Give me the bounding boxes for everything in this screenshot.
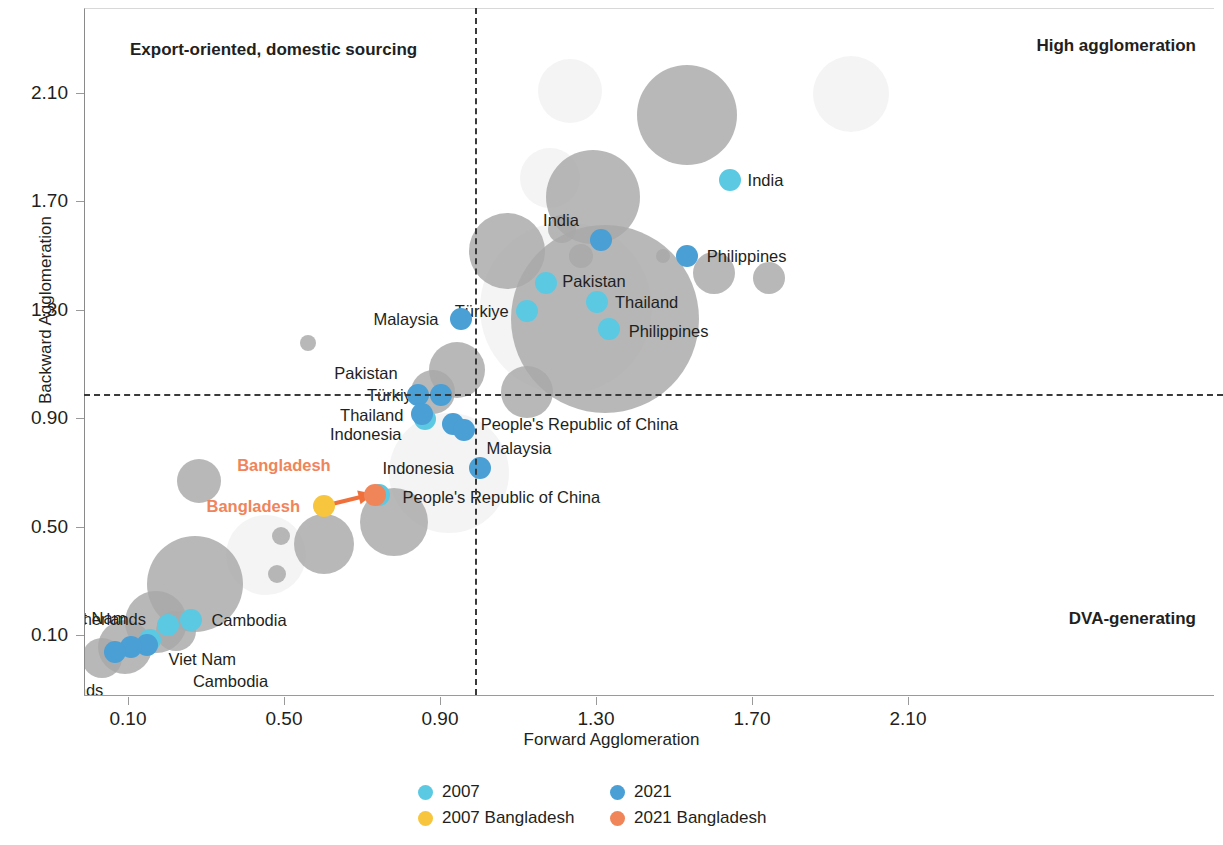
data-point-2007[interactable] xyxy=(516,300,538,322)
legend-item[interactable]: 2021 Bangladesh xyxy=(610,808,766,828)
y-tick-label: 2.10 xyxy=(31,82,68,104)
legend-swatch xyxy=(418,785,433,800)
point-label: India xyxy=(748,172,784,189)
point-label: Pakistan xyxy=(334,364,397,381)
point-label: Viet Nam xyxy=(85,610,126,627)
y-tick xyxy=(76,527,84,528)
legend-label: 2007 xyxy=(442,782,480,802)
background-bubble xyxy=(272,527,290,545)
x-tick-label: 0.90 xyxy=(422,708,459,730)
point-label: Indonesia xyxy=(382,460,454,477)
x-tick xyxy=(752,697,753,705)
data-point-2007[interactable] xyxy=(598,318,620,340)
x-tick-label: 2.10 xyxy=(890,708,927,730)
y-tick xyxy=(76,201,84,202)
data-point-2021[interactable] xyxy=(676,245,698,267)
quadrant-label-top-left: Export-oriented, domestic sourcing xyxy=(130,40,417,60)
y-tick xyxy=(76,310,84,311)
point-label: People's Republic of China xyxy=(403,489,601,506)
background-bubble xyxy=(753,262,785,294)
point-label: People's Republic of China xyxy=(481,416,679,433)
x-tick xyxy=(128,697,129,705)
x-axis-label: Forward Agglomeration xyxy=(0,730,1223,750)
x-tick-label: 1.70 xyxy=(734,708,771,730)
legend-swatch xyxy=(418,811,433,826)
legend-label: 2021 Bangladesh xyxy=(634,808,766,828)
data-point-2021[interactable] xyxy=(453,419,475,441)
background-bubble xyxy=(637,65,737,165)
horizontal-reference-line xyxy=(84,394,1223,396)
background-bubble xyxy=(656,249,670,263)
data-point-2007[interactable] xyxy=(180,609,202,631)
x-axis-line xyxy=(84,695,1214,696)
x-tick xyxy=(596,697,597,705)
legend-swatch xyxy=(610,785,625,800)
legend-label: 2021 xyxy=(634,782,672,802)
background-bubble xyxy=(569,244,593,268)
data-point-2021-bangladesh[interactable] xyxy=(364,484,386,506)
x-tick-label: 1.30 xyxy=(578,708,615,730)
data-point-2007[interactable] xyxy=(535,272,557,294)
y-tick xyxy=(76,635,84,636)
data-point-2021[interactable] xyxy=(450,308,472,330)
point-label: Malaysia xyxy=(373,310,438,327)
background-halo xyxy=(813,56,889,132)
x-tick xyxy=(440,697,441,705)
point-label: Netherlands xyxy=(85,682,103,695)
point-label: Pakistan xyxy=(562,273,625,290)
y-tick-label: 0.10 xyxy=(31,624,68,646)
background-halo xyxy=(538,59,602,123)
plot-inner: IndiaPakistanThailandPhilippinesTürkiyeT… xyxy=(85,9,1214,695)
legend-item[interactable]: 2007 Bangladesh xyxy=(418,808,574,828)
data-point-2021[interactable] xyxy=(469,457,491,479)
legend-item[interactable]: 2007 xyxy=(418,782,480,802)
y-tick xyxy=(76,93,84,94)
data-point-2021[interactable] xyxy=(411,403,433,425)
x-tick-label: 0.10 xyxy=(110,708,147,730)
point-label: Philippines xyxy=(629,323,709,340)
y-tick-label: 0.50 xyxy=(31,516,68,538)
point-label: Bangladesh xyxy=(206,498,300,515)
data-point-2007[interactable] xyxy=(586,291,608,313)
point-label: Indonesia xyxy=(330,425,402,442)
point-label: Cambodia xyxy=(193,673,268,690)
quadrant-label-top-right: High agglomeration xyxy=(1036,36,1196,56)
x-tick xyxy=(284,697,285,705)
point-label: Thailand xyxy=(340,407,403,424)
y-axis-label: Backward Agglomeration xyxy=(36,180,56,440)
point-label: India xyxy=(543,212,579,229)
data-point-2007[interactable] xyxy=(157,614,179,636)
point-label: Thailand xyxy=(615,294,678,311)
data-point-2007-bangladesh[interactable] xyxy=(313,495,335,517)
point-label: Viet Nam xyxy=(169,651,237,668)
x-tick-label: 0.50 xyxy=(266,708,303,730)
legend-item[interactable]: 2021 xyxy=(610,782,672,802)
point-label: Bangladesh xyxy=(237,457,331,474)
plot-area: IndiaPakistanThailandPhilippinesTürkiyeT… xyxy=(84,8,1214,695)
chart-canvas: IndiaPakistanThailandPhilippinesTürkiyeT… xyxy=(0,0,1223,845)
legend-label: 2007 Bangladesh xyxy=(442,808,574,828)
legend-swatch xyxy=(610,811,625,826)
point-label: Malaysia xyxy=(486,440,551,457)
data-point-2021[interactable] xyxy=(104,641,126,663)
x-tick xyxy=(908,697,909,705)
quadrant-label-bottom-right: DVA-generating xyxy=(1069,609,1196,629)
data-point-2021[interactable] xyxy=(590,229,612,251)
background-bubble xyxy=(268,565,286,583)
vertical-reference-line xyxy=(475,8,477,695)
data-point-2007[interactable] xyxy=(719,169,741,191)
point-label: Philippines xyxy=(707,248,787,265)
background-bubble xyxy=(294,514,354,574)
background-bubble xyxy=(300,335,316,351)
point-label: Cambodia xyxy=(211,611,286,628)
y-tick xyxy=(76,418,84,419)
